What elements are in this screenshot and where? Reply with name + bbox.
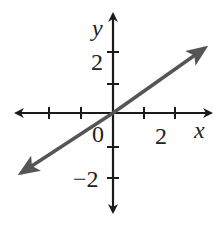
y-axis-label: y — [90, 15, 103, 41]
coordinate-plane: y 2 0 2 x −2 — [0, 0, 223, 228]
y-tick-label-neg2: −2 — [73, 166, 99, 192]
y-tick-label-2: 2 — [91, 49, 103, 75]
data-line — [113, 48, 205, 113]
x-axis-label: x — [193, 117, 205, 143]
x-tick-label-2: 2 — [155, 123, 167, 149]
origin-label: 0 — [92, 121, 104, 147]
